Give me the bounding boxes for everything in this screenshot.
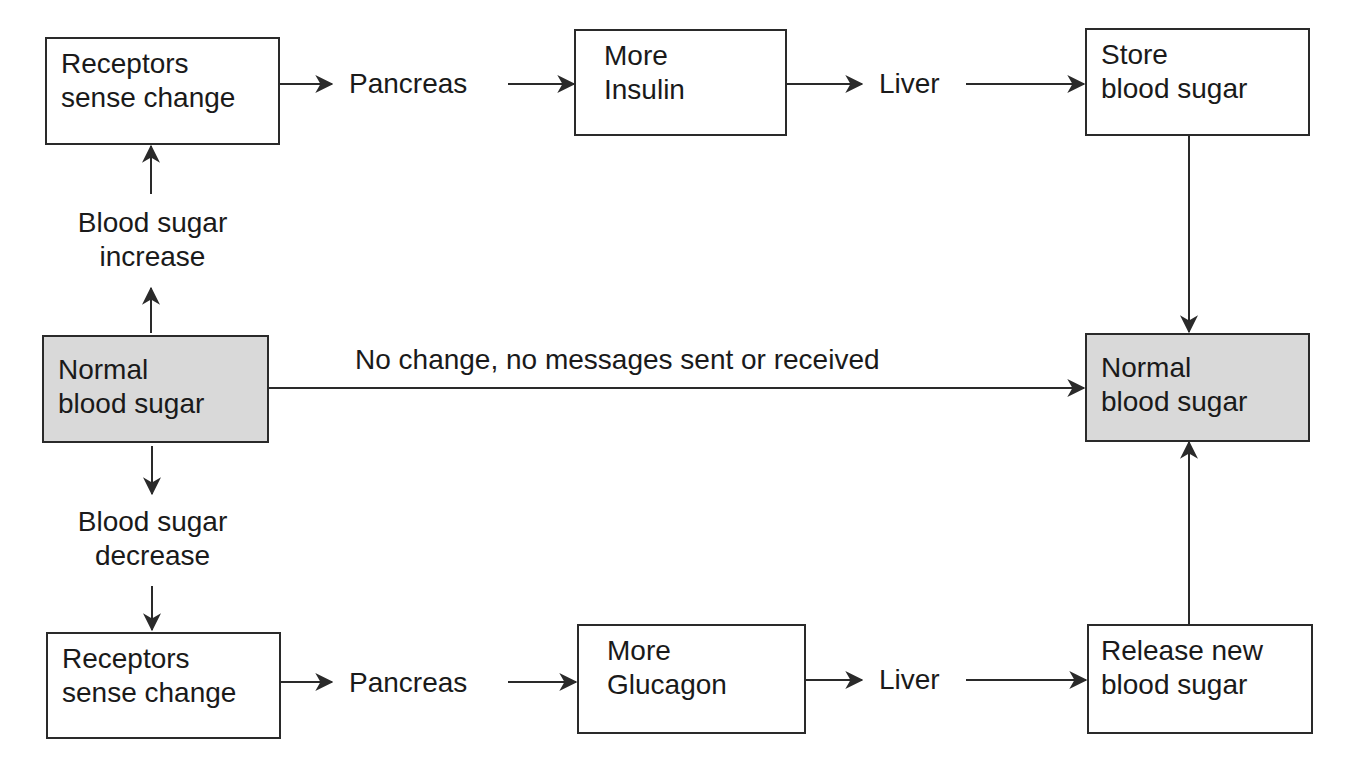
- store-line1: Store: [1101, 38, 1308, 72]
- normal-left-line2: blood sugar: [58, 387, 267, 421]
- store-blood-sugar-box: Store blood sugar: [1085, 28, 1310, 136]
- pancreas-label-top: Pancreas: [349, 67, 467, 101]
- glucagon-box: More Glucagon: [577, 624, 806, 734]
- receptors-box-top: Receptors sense change: [45, 37, 280, 145]
- normal-right-line2: blood sugar: [1101, 385, 1308, 419]
- insulin-box: More Insulin: [574, 29, 787, 136]
- liver-label-bottom: Liver: [879, 663, 940, 697]
- release-line1: Release new: [1101, 634, 1311, 668]
- insulin-line2: Insulin: [604, 73, 785, 107]
- blood-sugar-decrease-label: Blood sugar decrease: [50, 505, 255, 573]
- normal-blood-sugar-box-left: Normal blood sugar: [42, 335, 269, 443]
- store-line2: blood sugar: [1101, 72, 1308, 106]
- normal-right-line1: Normal: [1101, 351, 1308, 385]
- blood-sugar-increase-label: Blood sugar increase: [50, 206, 255, 274]
- receptors-box-bottom: Receptors sense change: [46, 632, 281, 739]
- decrease-line1: Blood sugar: [50, 505, 255, 539]
- receptors-bottom-line2: sense change: [62, 676, 279, 710]
- release-line2: blood sugar: [1101, 668, 1311, 702]
- pancreas-label-bottom: Pancreas: [349, 666, 467, 700]
- liver-label-top: Liver: [879, 67, 940, 101]
- receptors-bottom-line1: Receptors: [62, 642, 279, 676]
- glucagon-line1: More: [607, 634, 804, 668]
- normal-left-line1: Normal: [58, 353, 267, 387]
- receptors-top-line1: Receptors: [61, 47, 278, 81]
- insulin-line1: More: [604, 39, 785, 73]
- increase-line1: Blood sugar: [50, 206, 255, 240]
- receptors-top-line2: sense change: [61, 81, 278, 115]
- increase-line2: increase: [50, 240, 255, 274]
- release-blood-sugar-box: Release new blood sugar: [1087, 624, 1313, 734]
- no-change-label: No change, no messages sent or received: [355, 343, 880, 377]
- normal-blood-sugar-box-right: Normal blood sugar: [1085, 333, 1310, 442]
- glucagon-line2: Glucagon: [607, 668, 804, 702]
- decrease-line2: decrease: [50, 539, 255, 573]
